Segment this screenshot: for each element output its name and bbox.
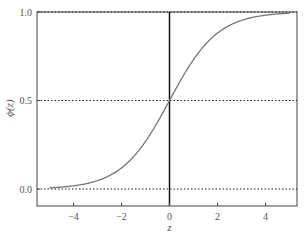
sigmoid-chart: −4−20240.00.51.0zϕ(z) [0, 0, 305, 235]
x-tick-label: 2 [215, 211, 220, 222]
y-axis-label: ϕ(z) [3, 99, 16, 117]
y-tick-label: 1.0 [20, 7, 33, 18]
y-tick-label: 0.5 [20, 95, 33, 106]
plot-frame [37, 12, 297, 206]
x-tick-label: −2 [116, 211, 127, 222]
x-tick-label: −4 [68, 211, 79, 222]
x-tick-label: 4 [263, 211, 268, 222]
y-tick-label: 0.0 [20, 184, 33, 195]
x-axis-label: z [166, 221, 172, 233]
